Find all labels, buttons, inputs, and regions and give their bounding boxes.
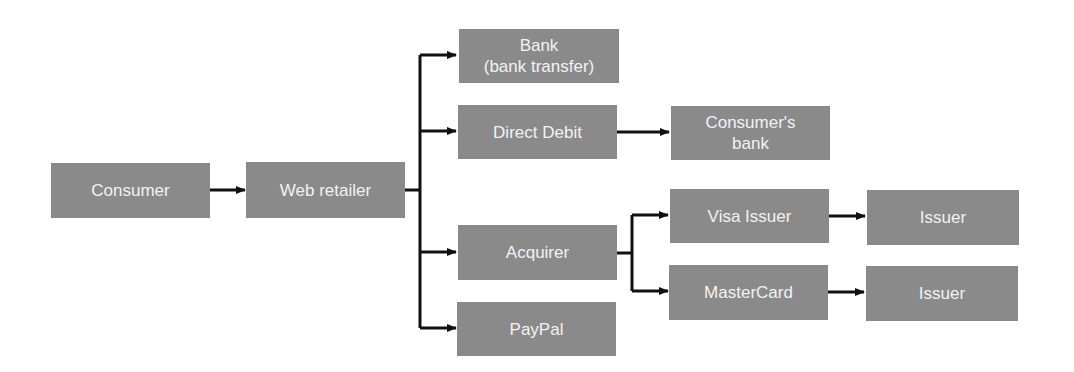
node-web-retailer: Web retailer (246, 162, 405, 218)
node-label-line1: Bank (520, 35, 559, 56)
node-acquirer: Acquirer (458, 225, 617, 280)
node-mastercard: MasterCard (669, 265, 828, 320)
node-visa-issuer: Visa Issuer (670, 189, 829, 243)
node-label: MasterCard (704, 282, 793, 303)
node-label: Direct Debit (493, 122, 582, 143)
node-label-line1: Consumer's (705, 112, 795, 133)
node-label: Acquirer (506, 242, 569, 263)
node-label-line2: (bank transfer) (484, 56, 595, 77)
node-issuer-visa: Issuer (867, 190, 1019, 245)
node-direct-debit: Direct Debit (458, 105, 617, 159)
node-paypal: PayPal (457, 302, 616, 356)
node-label: Consumer (91, 180, 169, 201)
node-consumers-bank: Consumer's bank (671, 106, 830, 160)
node-bank-transfer: Bank (bank transfer) (459, 29, 619, 83)
node-label-line2: bank (732, 133, 769, 154)
node-issuer-mastercard: Issuer (866, 266, 1018, 321)
node-label: Issuer (919, 283, 965, 304)
node-label: Visa Issuer (708, 206, 792, 227)
node-consumer: Consumer (51, 163, 210, 218)
node-label: Web retailer (280, 180, 371, 201)
node-label: PayPal (510, 319, 564, 340)
node-label: Issuer (920, 207, 966, 228)
